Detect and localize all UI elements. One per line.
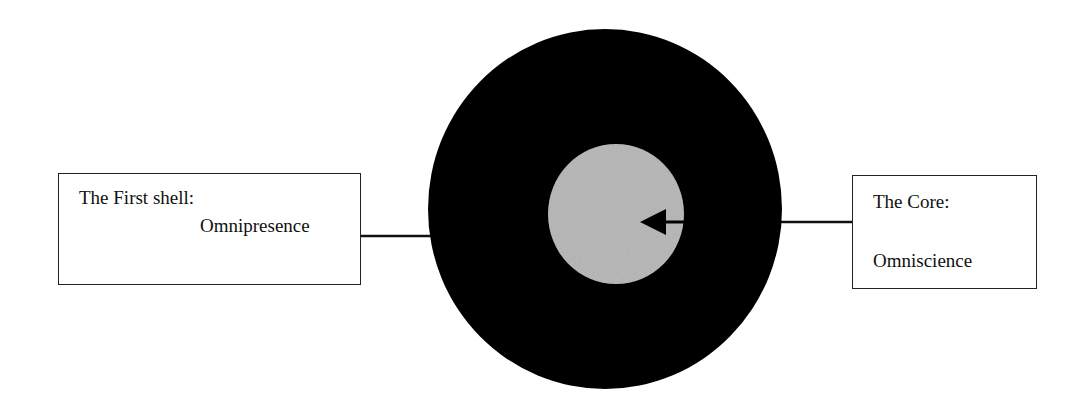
core-title: The Core: (873, 191, 950, 213)
first-shell-name: Omnipresence (200, 215, 310, 237)
first-shell-label-box: The First shell: Omnipresence (58, 173, 361, 285)
core-name: Omniscience (873, 250, 972, 272)
first-shell-title: The First shell: (79, 187, 194, 209)
core-label-box: The Core: Omniscience (852, 175, 1037, 289)
